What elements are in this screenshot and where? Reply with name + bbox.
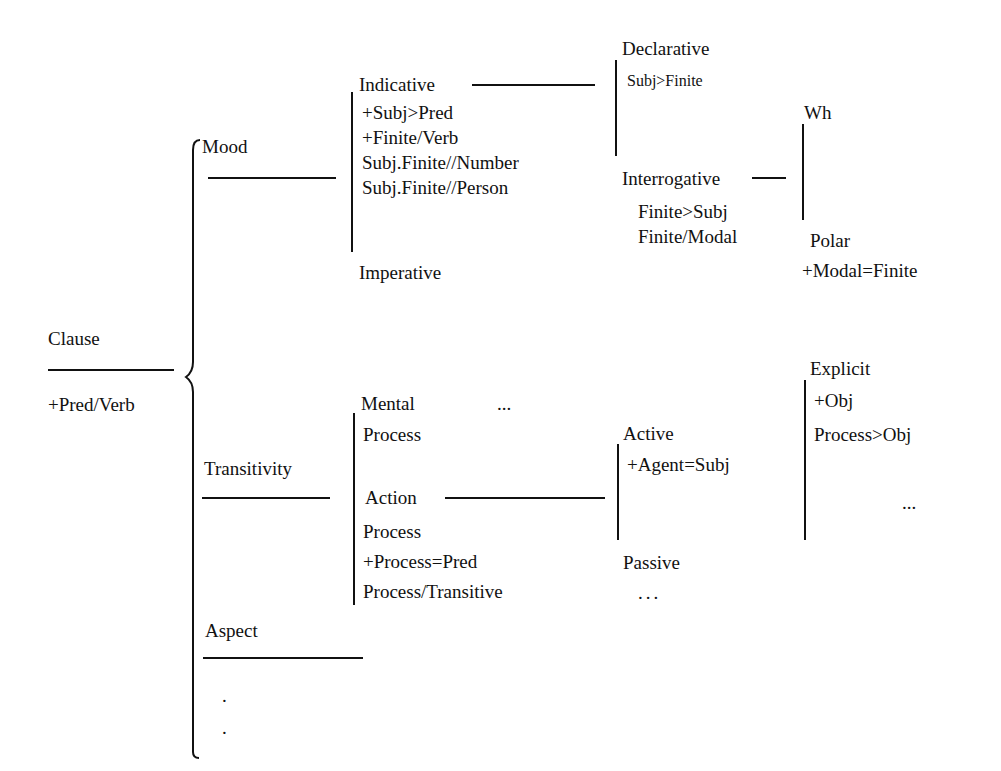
system-brace — [0, 0, 1001, 771]
action-label-line-1: Action — [365, 487, 417, 509]
action-label-line-2: Process — [363, 521, 421, 543]
indicative-feature-3: Subj.Finite//Number — [362, 152, 519, 174]
polar-label: Polar — [810, 230, 850, 252]
passive-label: Passive — [623, 552, 680, 574]
wh-label: Wh — [804, 102, 831, 124]
interrogative-subsystem-bar — [802, 124, 804, 220]
indicative-feature-1: +Subj>Pred — [362, 102, 453, 124]
interrogative-label: Interrogative — [622, 168, 720, 190]
interrogative-connector — [752, 177, 786, 179]
aspect-divider — [203, 657, 363, 659]
transitivity-options-bar — [353, 413, 355, 605]
clause-feature: +Pred/Verb — [48, 394, 135, 416]
transitivity-label: Transitivity — [204, 458, 292, 480]
action-subsystem-bar — [617, 444, 619, 540]
declarative-feature: Subj>Finite — [627, 70, 703, 92]
transitivity-divider — [202, 497, 330, 499]
polar-feature: +Modal=Finite — [802, 260, 917, 282]
indicative-feature-2: +Finite/Verb — [362, 127, 458, 149]
indicative-label: Indicative — [359, 74, 435, 96]
action-feature-2: Process/Transitive — [363, 581, 503, 603]
clause-label: Clause — [48, 328, 100, 350]
explicit-label: Explicit — [810, 358, 870, 380]
explicit-feature-1: +Obj — [814, 390, 853, 412]
indicative-subsystem-bar — [615, 60, 617, 156]
imperative-label: Imperative — [359, 262, 441, 284]
indicative-connector — [472, 84, 595, 86]
mental-label-line-1: Mental — [361, 393, 415, 415]
mood-options-bar — [351, 92, 353, 252]
mental-label-line-2: Process — [363, 424, 421, 446]
active-feature: +Agent=Subj — [627, 454, 730, 476]
declarative-label: Declarative — [622, 38, 710, 60]
explicit-feature-2: Process>Obj — [814, 424, 911, 446]
aspect-label: Aspect — [205, 620, 258, 642]
interrogative-feature-1: Finite>Subj — [638, 201, 728, 223]
action-feature-1: +Process=Pred — [363, 551, 477, 573]
action-connector — [445, 497, 605, 499]
mood-divider — [208, 177, 336, 179]
mood-label: Mood — [202, 136, 247, 158]
continuation-dots: . . — [222, 680, 227, 744]
active-subsystem-bar — [804, 380, 806, 540]
interrogative-feature-2: Finite/Modal — [638, 226, 737, 248]
active-label: Active — [623, 423, 674, 445]
passive-ellipsis: ... — [638, 582, 661, 604]
explicit-ellipsis: ... — [902, 492, 916, 514]
clause-divider — [48, 369, 174, 371]
indicative-feature-4: Subj.Finite//Person — [362, 177, 508, 199]
mental-ellipsis: ... — [497, 393, 511, 415]
